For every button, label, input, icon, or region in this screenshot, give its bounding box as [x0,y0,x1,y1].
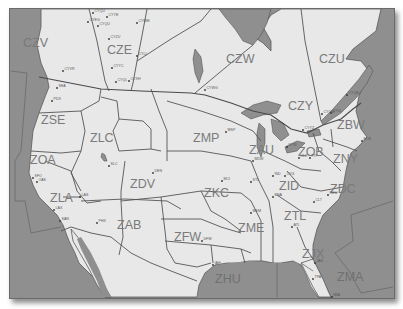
region-label-cze[interactable]: CZE [107,43,132,57]
region-label-zau[interactable]: ZAU [249,143,274,157]
artcc-map[interactable]: CZV CZE CZW CZU CZY ZBW ZSE ZLC ZMP ZAU … [10,9,394,298]
airport-code: CYZU [111,35,121,39]
airport-code: CYYE [109,13,119,17]
region-label-zlc[interactable]: ZLC [90,131,114,145]
airport-code: LAS [82,193,89,197]
region-label-czw[interactable]: CZW [226,52,255,66]
airport-code: CLT [316,198,323,202]
region-label-zab[interactable]: ZAB [117,218,141,232]
region-label-zhu[interactable]: ZHU [215,272,241,286]
airport-code: OAK [39,178,47,182]
airport-code: MCI [224,177,231,181]
airport-code: CYYC [114,64,124,68]
region-label-czy[interactable]: CZY [288,99,314,113]
airport-code: CYQU [95,9,106,13]
airport-code: PIT [312,154,318,158]
airport-code: SLC [111,162,118,166]
airport-code: CYQB [349,91,360,95]
airport-code: TPA [315,275,322,279]
region-label-zfw[interactable]: ZFW [174,230,201,244]
airport-code: RDU [330,191,338,195]
region-label-czu[interactable]: CZU [319,52,345,66]
airport-code: CYLL [139,52,148,56]
airport-code: CYYZ [305,126,315,130]
region-label-zme[interactable]: ZME [238,221,264,235]
airport-code: SAN [62,217,70,221]
airport-code: MSP [228,128,236,132]
region-label-zse[interactable]: ZSE [41,113,65,127]
airport-code: CYMM [139,19,150,23]
airport-code: MDW [255,157,265,161]
region-label-czv[interactable]: CZV [23,36,49,50]
region-label-ztl[interactable]: ZTL [284,209,306,223]
region-label-zkc[interactable]: ZKC [204,186,229,200]
airport-code: CYXH [131,77,141,81]
region-label-zoa[interactable]: ZOA [30,153,56,167]
airport-code: STL [253,178,260,182]
airport-code: BOS [364,137,372,141]
airport-code: MEM [253,209,261,213]
region-label-zla[interactable]: ZLA [50,191,74,205]
airport-code: JAX [317,259,324,263]
region-label-zny[interactable]: ZNY [333,152,359,166]
airport-code: CYWG [207,86,218,90]
airport-code: MIA [334,293,341,297]
region-label-zmp[interactable]: ZMP [193,131,219,145]
airport-code: BNA [275,193,283,197]
airport-code: DTW [289,143,298,147]
airport-code: CVG [287,172,295,176]
airport-code: SEA [59,84,67,88]
region-label-zbw[interactable]: ZBW [337,118,365,132]
airport-code: ATL [294,223,300,227]
airport-code: LAX [56,206,63,210]
region-label-zma[interactable]: ZMA [337,270,364,284]
airport-code: IAH [215,261,221,265]
airport-code: CYQL [118,78,128,82]
airport-code: DFW [204,237,213,241]
airport-code: PHX [99,219,107,223]
airport-code: CLE [301,154,309,158]
airport-code: CYVR [65,67,75,71]
region-label-zdv[interactable]: ZDV [130,177,156,191]
airport-code: CYEG [90,18,100,22]
region-label-zid[interactable]: ZID [279,179,299,193]
airport-code: IND [275,172,282,176]
airport-code: CYQU [100,22,111,26]
airport-code: DEN [155,169,163,173]
airport-code: PDX [54,97,62,101]
map-frame: CZV CZE CZW CZU CZY ZBW ZSE ZLC ZMP ZAU … [9,8,395,299]
airport-code: CYOW [324,110,336,114]
